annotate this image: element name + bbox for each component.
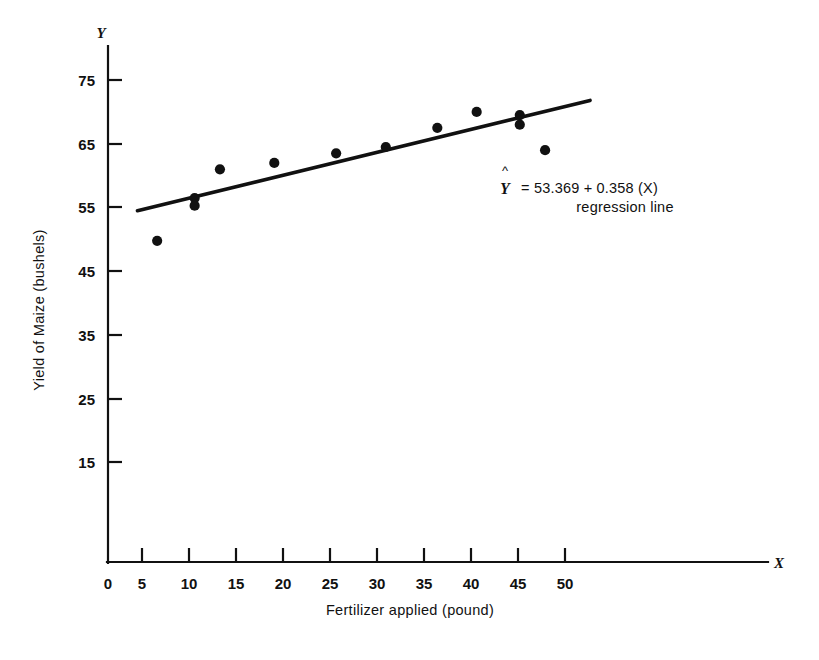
x-axis-ticks (142, 548, 565, 562)
y-tick-label: 15 (78, 454, 95, 471)
y-tick-label: 25 (78, 391, 95, 408)
data-point (331, 148, 341, 158)
data-point (215, 164, 225, 174)
data-point (152, 236, 162, 246)
y-tick-label: 35 (78, 327, 95, 344)
regression-equation-annotation: ^ Y = 53.369 + 0.358 (X) regression line (500, 163, 674, 215)
data-point (515, 110, 525, 120)
equation-caption: regression line (576, 199, 673, 215)
x-axis-tick-labels: 0 5 10 15 20 25 30 35 40 45 50 (104, 575, 574, 592)
y-tick-label: 65 (78, 136, 95, 153)
x-tick-label: 45 (510, 575, 527, 592)
equation-hat-symbol: ^ (502, 163, 509, 178)
y-tick-label: 45 (78, 263, 95, 280)
chart-figure: 75 65 55 45 35 25 15 0 5 10 15 2 (0, 0, 819, 660)
y-axis-variable-name: Y (96, 25, 107, 41)
y-tick-label: 75 (78, 72, 95, 89)
scatter-plot-svg: 75 65 55 45 35 25 15 0 5 10 15 2 (0, 0, 819, 660)
x-axis-title: Fertilizer applied (pound) (326, 602, 494, 618)
y-tick-label: 55 (78, 199, 95, 216)
data-point (269, 158, 279, 168)
x-tick-label: 40 (463, 575, 480, 592)
x-tick-label: 5 (138, 575, 146, 592)
data-point (515, 120, 525, 130)
equation-variable: Y (500, 180, 511, 197)
y-axis-ticks (108, 80, 122, 462)
data-point (472, 107, 482, 117)
x-axis-variable-name: X (773, 555, 785, 571)
x-tick-label: 30 (369, 575, 386, 592)
data-point (381, 142, 391, 152)
x-tick-label: 15 (228, 575, 245, 592)
x-tick-label: 20 (275, 575, 292, 592)
data-point (540, 145, 550, 155)
data-point (190, 201, 200, 211)
data-points-group (152, 107, 550, 246)
data-point (432, 123, 442, 133)
x-tick-label: 0 (104, 575, 112, 592)
x-tick-label: 35 (416, 575, 433, 592)
x-tick-label: 50 (557, 575, 574, 592)
y-axis-tick-labels: 75 65 55 45 35 25 15 (78, 72, 95, 471)
x-tick-label: 10 (181, 575, 198, 592)
equation-body: = 53.369 + 0.358 (X) (521, 180, 658, 196)
x-tick-label: 25 (322, 575, 339, 592)
y-axis-title: Yield of Maize (bushels) (31, 229, 47, 390)
